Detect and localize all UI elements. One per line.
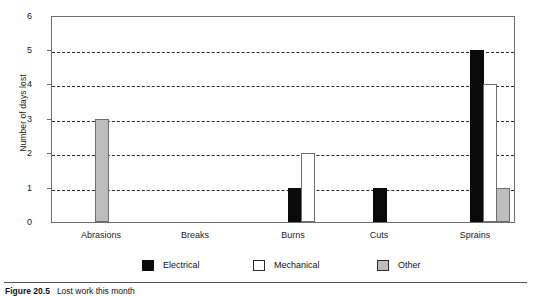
- bar-cuts-electrical: [373, 188, 387, 223]
- bar-sprains-other: [496, 188, 510, 223]
- legend: Electrical Mechanical Other: [0, 258, 533, 274]
- caption-text: Lost work this month: [57, 286, 135, 296]
- gridline-2: [52, 155, 514, 156]
- x-tick-label-breaks: Breaks: [145, 230, 245, 240]
- legend-label-other: Other: [398, 260, 421, 270]
- gridline-3: [52, 121, 514, 122]
- legend-item-mechanical: Mechanical: [253, 258, 320, 272]
- x-tick-label-sprains: Sprains: [425, 230, 525, 240]
- legend-label-mechanical: Mechanical: [274, 260, 320, 270]
- bar-sprains-electrical: [470, 50, 484, 223]
- caption-number: Figure 20.5: [5, 286, 50, 296]
- figure-caption: Figure 20.5Lost work this month: [5, 286, 135, 296]
- x-tick-label-burns: Burns: [243, 230, 343, 240]
- x-tick-label-cuts: Cuts: [329, 230, 429, 240]
- legend-swatch-other-icon: [377, 260, 389, 271]
- bar-burns-electrical: [288, 188, 302, 223]
- y-axis-title: Number of days lost: [18, 38, 28, 188]
- caption-divider: [4, 282, 527, 283]
- legend-label-electrical: Electrical: [163, 260, 200, 270]
- legend-swatch-electrical-icon: [142, 260, 154, 271]
- gridline-1: [52, 190, 514, 191]
- legend-item-other: Other: [377, 258, 421, 272]
- x-tick-label-abrasions: Abrasions: [51, 230, 151, 240]
- gridline-5: [52, 52, 514, 53]
- bar-sprains-mechanical: [483, 84, 497, 222]
- plot-area: [51, 16, 515, 223]
- bar-abrasions-other: [95, 119, 109, 223]
- gridline-4: [52, 86, 514, 87]
- legend-item-electrical: Electrical: [142, 258, 200, 272]
- bar-burns-mechanical: [301, 153, 315, 222]
- legend-swatch-mechanical-icon: [253, 260, 265, 271]
